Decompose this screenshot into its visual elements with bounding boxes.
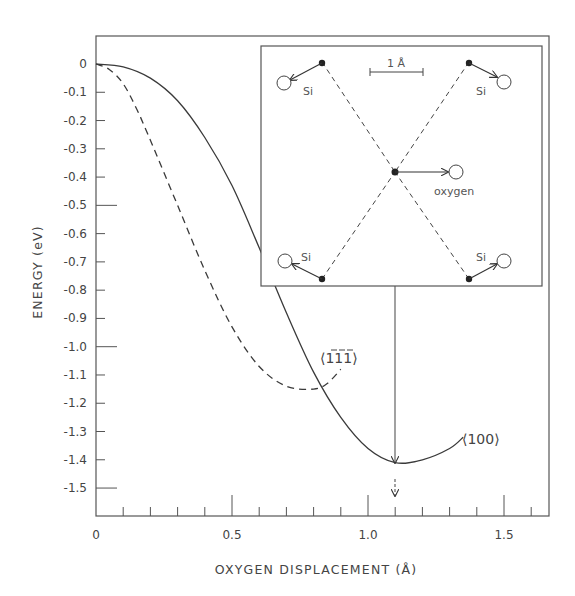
svg-text:1 Å: 1 Å [387, 57, 405, 70]
y-axis-tick-labels: 0-0.1-0.2-0.3-0.4-0.5-0.6-0.7-0.8-0.9-1.… [64, 57, 87, 495]
y-tick-label: -1.2 [64, 396, 87, 410]
svg-text:Si: Si [476, 251, 486, 264]
y-tick-label: -0.8 [64, 283, 87, 297]
y-tick-label: -0.2 [64, 114, 87, 128]
y-tick-label: -0.6 [64, 227, 87, 241]
energy-displacement-chart: 0-0.1-0.2-0.3-0.4-0.5-0.6-0.7-0.8-0.9-1.… [0, 0, 575, 596]
y-tick-label: -0.3 [64, 142, 87, 156]
x-tick-label: 0.5 [222, 528, 241, 542]
y-tick-label: -1.1 [64, 368, 87, 382]
y-tick-label: -0.5 [64, 198, 87, 212]
svg-text:Si: Si [476, 85, 486, 98]
x-axis-title: OXYGEN DISPLACEMENT (Å) [215, 562, 418, 577]
y-tick-label: -0.4 [64, 170, 87, 184]
svg-text:⟨111⟩: ⟨111⟩ [320, 350, 358, 366]
svg-text:Si: Si [303, 85, 313, 98]
y-tick-label: -1.5 [64, 481, 87, 495]
y-tick-label: -0.7 [64, 255, 87, 269]
x-tick-label: 1.5 [494, 528, 513, 542]
svg-text:oxygen: oxygen [434, 185, 474, 198]
y-axis-title: ENERGY (eV) [30, 225, 45, 319]
y-tick-label: -1.4 [64, 453, 87, 467]
x-tick-label: 1.0 [358, 528, 377, 542]
y-tick-label: -0.9 [64, 311, 87, 325]
y-tick-label: -1.0 [64, 340, 87, 354]
y-tick-label: 0 [79, 57, 87, 71]
curve-label-111: ⟨111⟩ [320, 350, 358, 366]
y-axis-ticks [96, 92, 117, 488]
x-axis-ticks [123, 495, 531, 516]
y-tick-label: -0.1 [64, 85, 87, 99]
curve-label-100: ⟨100⟩ [462, 431, 500, 447]
x-axis-tick-labels: 00.51.01.5 [92, 528, 513, 542]
x-tick-label: 0 [92, 528, 100, 542]
inset-diagram: 1 Å Si Si Si [261, 46, 542, 286]
svg-text:Si: Si [301, 251, 311, 264]
y-tick-label: -1.3 [64, 425, 87, 439]
